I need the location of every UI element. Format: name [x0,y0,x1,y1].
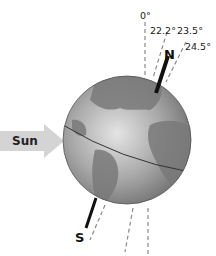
south-axis [86,198,96,228]
angle-label-22-2: 22.2° [150,25,176,36]
angle-label-23-5: 23.5° [177,25,203,36]
north-label: N [164,47,175,62]
angle-label-0: 0° [140,10,151,21]
sun-label: Sun [12,134,38,148]
angle-label-24-5: 24.5° [185,41,211,52]
south-label: S [75,230,84,245]
earth-tilt-diagram [0,0,216,256]
